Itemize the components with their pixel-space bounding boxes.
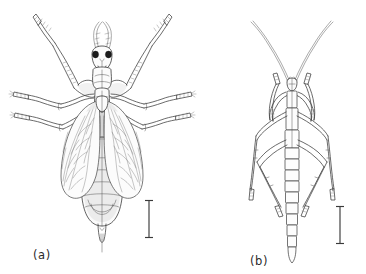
- thorax-b: [285, 91, 299, 148]
- plate-canvas: (a): [0, 0, 366, 274]
- head-b: [287, 77, 297, 91]
- prothorax: [93, 67, 112, 91]
- eye-left: [92, 51, 98, 58]
- panel-a-label: (a): [33, 248, 51, 262]
- plate-background: [0, 0, 366, 274]
- panel-b-label: (b): [250, 254, 268, 268]
- eye-right: [105, 51, 111, 58]
- figure-plate: (a): [0, 0, 366, 274]
